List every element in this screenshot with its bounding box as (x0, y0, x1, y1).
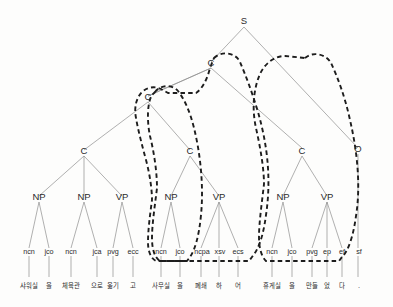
surface-word: 사무실 (152, 281, 170, 290)
node-o: O (354, 143, 361, 154)
surface-word: . (358, 282, 360, 290)
node-s: S (241, 15, 247, 26)
pos-tag: pvg (306, 247, 318, 256)
tree-edges (29, 27, 358, 248)
phrase-vp-1: VP (116, 191, 129, 202)
pos-tag: ncn (23, 247, 35, 256)
surface-word: 휴게실 (263, 281, 281, 290)
surface-word: 샤워실 (20, 281, 38, 290)
word-labels: 샤워실 을 체육관 으로 옮기 고 사무실 을 폐쇄 하 어 휴게실 을 만들 … (20, 281, 360, 290)
pos-tag: ecc (127, 247, 139, 256)
phrase-np-2: NP (77, 191, 90, 202)
node-c-left: C (145, 91, 152, 102)
pos-tag: ef (339, 247, 345, 256)
parse-tree-diagram: S C C C C C O NP NP VP NP VP NP VP ncn j… (0, 0, 393, 307)
chunk-boundary-inner (148, 86, 202, 261)
pos-tag: ncn (65, 247, 77, 256)
pos-tag: xsv (215, 247, 226, 256)
surface-word: 으로 (91, 282, 103, 290)
node-c-2: C (187, 145, 194, 156)
surface-word: 다 (339, 281, 345, 290)
pos-tag: jca (91, 247, 101, 256)
pos-tag: ncn (266, 247, 278, 256)
phrase-np-3: NP (164, 191, 177, 202)
surface-word: 고 (130, 282, 136, 290)
chunk-boundary-outer (135, 53, 268, 261)
surface-word: 었 (324, 282, 330, 290)
pos-tag: ncpa (194, 247, 210, 256)
phrase-vp-2: VP (213, 191, 226, 202)
surface-word: 옮기 (107, 281, 119, 290)
pos-tag: ecs (232, 247, 244, 256)
leaf-stems (29, 256, 358, 277)
pos-tag: ep (323, 247, 331, 256)
surface-word: 을 (177, 282, 183, 290)
phrase-vp-3: VP (321, 191, 334, 202)
surface-word: 어 (235, 281, 241, 290)
pos-tag: jco (174, 247, 184, 256)
surface-word: 하 (216, 281, 222, 290)
surface-word: 을 (289, 282, 295, 290)
pos-tag: ncn (155, 247, 167, 256)
chunk-boundaries (135, 53, 358, 261)
node-labels: S C C C C C O (81, 15, 362, 156)
pos-tag: pvg (107, 247, 119, 256)
pos-tag: jco (43, 247, 53, 256)
chunk-boundary-right (254, 54, 359, 261)
surface-word: 을 (46, 282, 52, 290)
phrase-np-4: NP (276, 191, 289, 202)
surface-word: 만들 (306, 281, 318, 290)
surface-word: 폐쇄 (195, 281, 207, 290)
node-c-1: C (81, 145, 88, 156)
surface-word: 체육관 (62, 281, 80, 290)
node-c-3: C (299, 145, 306, 156)
pos-tag: sf (356, 247, 362, 256)
pos-tag: jco (286, 247, 296, 256)
node-c-top: C (208, 57, 215, 68)
phrase-np-1: NP (32, 191, 45, 202)
phrase-labels: NP NP VP NP VP NP VP (32, 191, 333, 202)
